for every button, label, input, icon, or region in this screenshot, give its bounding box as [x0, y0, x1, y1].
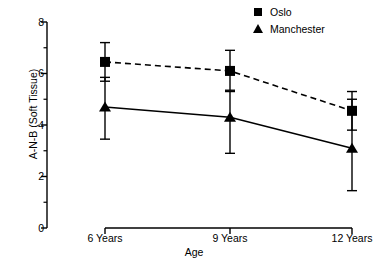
series-line-manchester: [105, 107, 352, 148]
chart-figure: Oslo Manchester A-N-B (Soft Tissue) Age …: [0, 0, 388, 266]
data-point-oslo: [225, 66, 235, 76]
data-point-manchester: [99, 101, 111, 111]
plot-area: [0, 0, 388, 266]
data-point-oslo: [100, 57, 110, 67]
